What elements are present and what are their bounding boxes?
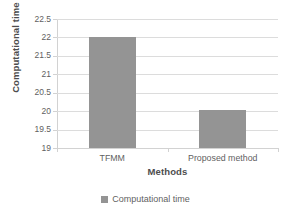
legend-swatch-icon [101, 196, 108, 203]
x-axis-tick-label: TFMM [57, 153, 168, 164]
y-axis-tick-label: 20 [5, 107, 51, 116]
y-axis-tick-label: 21.5 [5, 51, 51, 60]
y-axis-tick [53, 93, 57, 94]
y-axis-tick [53, 56, 57, 57]
bar [199, 110, 246, 148]
x-axis-title: Methods [57, 166, 278, 177]
gridline [57, 19, 278, 20]
x-axis-tick [278, 148, 279, 152]
y-axis-tick [53, 37, 57, 38]
chart-legend: Computational time [0, 194, 291, 204]
y-axis-tick-labels: 22.52221.52120.52019.519 [0, 0, 51, 216]
y-axis-tick-label: 19.5 [5, 125, 51, 134]
y-axis-tick [53, 74, 57, 75]
y-axis-tick-label: 20.5 [5, 88, 51, 97]
y-axis-tick-label: 19 [5, 144, 51, 153]
x-axis-tick-label: Proposed method [168, 153, 279, 164]
y-axis-tick [53, 130, 57, 131]
y-axis-tick-label: 22.5 [5, 15, 51, 24]
legend-item-label: Computational time [112, 194, 190, 204]
y-axis-tick [53, 19, 57, 20]
bar-chart: Computational time (ms) 22.52221.52120.5… [0, 0, 291, 216]
plot-area [57, 19, 278, 148]
bar [89, 37, 136, 148]
y-axis-tick [53, 111, 57, 112]
y-axis-tick-label: 21 [5, 70, 51, 79]
y-axis-tick-label: 22 [5, 33, 51, 42]
x-axis-tick [168, 148, 169, 152]
x-axis-tick [57, 148, 58, 152]
